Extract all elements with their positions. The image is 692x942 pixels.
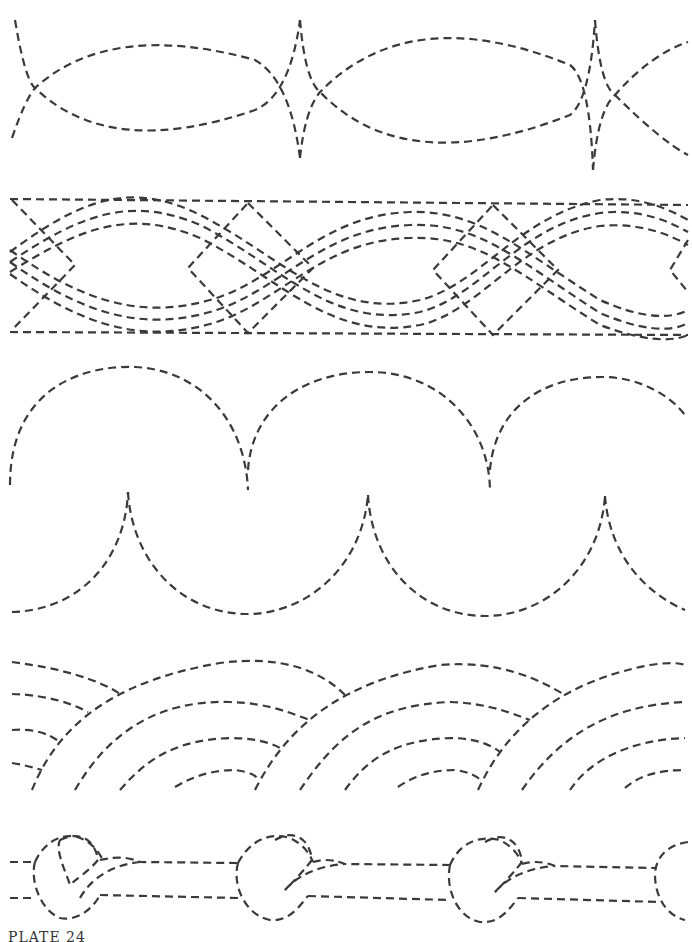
plate-caption: PLATE 24	[8, 930, 86, 942]
scallop-border	[10, 367, 685, 616]
pointed-oval-border	[12, 20, 688, 170]
quilting-patterns-plate	[0, 0, 692, 942]
knotted-rope-border	[10, 835, 688, 922]
overlapping-fan-border	[12, 661, 685, 790]
cable-diamond-border	[10, 197, 688, 339]
